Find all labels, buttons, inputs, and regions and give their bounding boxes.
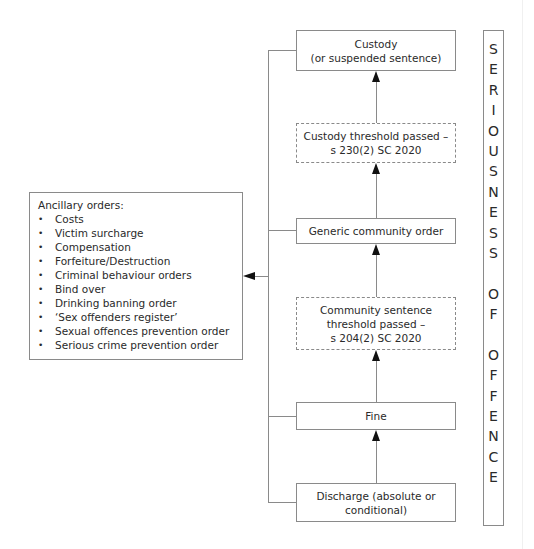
custody-threshold-box: Custody threshold passed – s 230(2) SC 2… <box>296 123 456 163</box>
list-item: Drinking banning order <box>38 296 242 310</box>
tap-custody <box>268 50 296 51</box>
list-item: Compensation <box>38 240 242 254</box>
letter: S <box>489 223 498 243</box>
list-item: Serious crime prevention order <box>38 338 242 352</box>
tap-fine <box>268 416 296 417</box>
letter: F <box>489 365 497 385</box>
page-edge <box>522 0 523 549</box>
generic-community-order-box: Generic community order <box>296 218 456 244</box>
letter: S <box>489 243 498 263</box>
ancillary-orders-box: Ancillary orders: Costs Victim surcharge… <box>29 192 243 360</box>
list-item: Sexual offences prevention order <box>38 324 242 338</box>
arrow-up-icon <box>372 350 380 361</box>
discharge-line-1: Discharge (absolute or <box>316 489 435 503</box>
letter: E <box>489 59 498 79</box>
letter: I <box>491 100 495 120</box>
arrow-left-icon <box>243 272 255 280</box>
list-item: ‘Sex offenders register’ <box>38 310 242 324</box>
connector-fine-to-community-threshold <box>376 359 377 402</box>
fine-label: Fine <box>365 409 386 423</box>
letter: F <box>489 304 497 324</box>
letter: O <box>488 345 499 365</box>
community-threshold-box: Community sentence threshold passed – s … <box>296 297 456 350</box>
seriousness-of-offence-label: S E R I O U S N E S S O F O F F E N C E <box>483 30 504 526</box>
letter: U <box>488 141 498 161</box>
letter: O <box>488 284 499 304</box>
connector-to-ancillary <box>254 276 268 277</box>
letter: E <box>489 202 498 222</box>
list-item: Costs <box>38 212 242 226</box>
letter: E <box>489 406 498 426</box>
arrow-up-icon <box>372 163 380 174</box>
letter: N <box>488 182 498 202</box>
letter: F <box>489 386 497 406</box>
list-item: Criminal behaviour orders <box>38 268 242 282</box>
custody-line-1: Custody <box>311 37 442 51</box>
left-bus-line <box>268 50 269 503</box>
ancillary-title: Ancillary orders: <box>38 198 242 212</box>
generic-community-order-label: Generic community order <box>309 224 444 238</box>
letter: C <box>489 447 499 467</box>
custody-box: Custody (or suspended sentence) <box>296 30 456 71</box>
community-threshold-line-3: s 204(2) SC 2020 <box>320 331 432 345</box>
custody-threshold-line-2: s 230(2) SC 2020 <box>304 143 449 157</box>
community-threshold-line-1: Community sentence <box>320 303 432 317</box>
arrow-up-icon <box>372 71 380 82</box>
list-item: Bind over <box>38 282 242 296</box>
discharge-box: Discharge (absolute or conditional) <box>296 483 456 522</box>
community-threshold-line-2: threshold passed – <box>320 317 432 331</box>
ancillary-list: Costs Victim surcharge Compensation Forf… <box>38 212 242 352</box>
letter: S <box>489 39 498 59</box>
list-item: Victim surcharge <box>38 226 242 240</box>
connector-community-threshold-to-generic <box>376 253 377 297</box>
tap-discharge <box>268 502 296 503</box>
letter: N <box>488 426 498 446</box>
letter: S <box>489 161 498 181</box>
custody-line-2: (or suspended sentence) <box>311 51 442 65</box>
arrow-up-icon <box>372 430 380 441</box>
arrow-up-icon <box>372 244 380 255</box>
list-item: Forfeiture/Destruction <box>38 254 242 268</box>
fine-box: Fine <box>296 402 456 430</box>
custody-threshold-line-1: Custody threshold passed – <box>304 129 449 143</box>
letter: R <box>489 80 499 100</box>
discharge-line-2: conditional) <box>316 503 435 517</box>
connector-custody-threshold-to-custody <box>376 80 377 123</box>
connector-discharge-to-fine <box>376 439 377 483</box>
tap-generic <box>268 230 296 231</box>
letter: E <box>489 467 498 487</box>
letter: O <box>488 121 499 141</box>
connector-generic-to-custody-threshold <box>376 172 377 218</box>
